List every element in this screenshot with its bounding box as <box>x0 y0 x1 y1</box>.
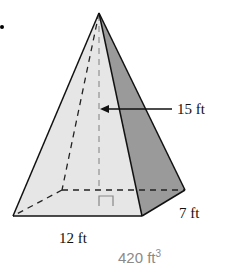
length-label: 12 ft <box>59 230 87 247</box>
bullet-dot <box>0 25 4 29</box>
pyramid-diagram <box>0 0 226 273</box>
volume-exponent: 3 <box>156 248 162 259</box>
volume-value: 420 ft <box>118 249 156 266</box>
height-label: 15 ft <box>177 101 205 118</box>
width-label: 7 ft <box>179 205 199 222</box>
volume-label: 420 ft3 <box>118 248 161 266</box>
